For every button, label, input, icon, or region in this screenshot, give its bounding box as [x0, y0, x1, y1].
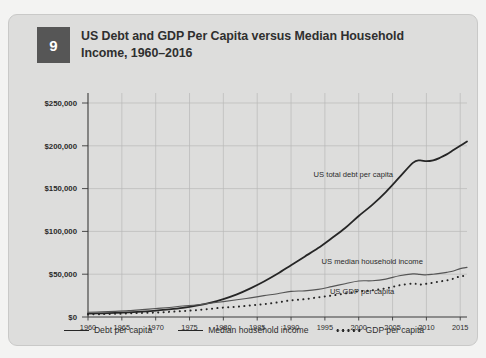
chart-plot-area: $0$50,000$100,000$150,000$200,000$250,00… [9, 85, 478, 346]
figure-card: 9 US Debt and GDP Per Capita versus Medi… [8, 14, 478, 346]
chart-series [88, 142, 467, 315]
figure-title: US Debt and GDP Per Capita versus Median… [81, 28, 441, 61]
legend-label: Median household income [208, 325, 308, 335]
chart-legend: Debt per capitaMedian household incomeGD… [9, 325, 478, 335]
y-tick-label: $100,000 [44, 227, 77, 236]
y-tick-label: $150,000 [44, 184, 77, 193]
series-line-gdp-per-capita [88, 276, 467, 315]
legend-dotted-swatch [335, 329, 362, 332]
annotation-debt-per-capita: US total debt per capita [314, 170, 394, 179]
y-tick-label: $250,000 [44, 99, 77, 108]
line-chart: $0$50,000$100,000$150,000$200,000$250,00… [9, 85, 478, 346]
chart-annotations: US total debt per capitaUS median househ… [314, 170, 423, 296]
legend-line-swatch [178, 330, 203, 331]
page-root: 9 US Debt and GDP Per Capita versus Medi… [0, 0, 486, 358]
legend-item: Median household income [178, 325, 308, 335]
legend-label: Debt per capita [94, 325, 152, 335]
y-tick-label: $200,000 [44, 142, 77, 151]
annotation-gdp-per-capita: US GDP per capita [330, 287, 395, 296]
y-tick-label: $50,000 [49, 270, 78, 279]
annotation-median-household-income: US median household income [322, 257, 423, 266]
legend-item: Debt per capita [64, 325, 152, 335]
legend-label: GDP per capita [366, 325, 425, 335]
legend-line-swatch [64, 330, 89, 331]
figure-number-badge: 9 [37, 27, 70, 63]
y-tick-label: $0 [68, 313, 77, 322]
series-line-debt-per-capita [88, 142, 467, 314]
legend-item: GDP per capita [335, 325, 425, 335]
figure-header: 9 US Debt and GDP Per Capita versus Medi… [9, 15, 477, 81]
y-axis-tick-labels: $0$50,000$100,000$150,000$200,000$250,00… [44, 99, 88, 322]
